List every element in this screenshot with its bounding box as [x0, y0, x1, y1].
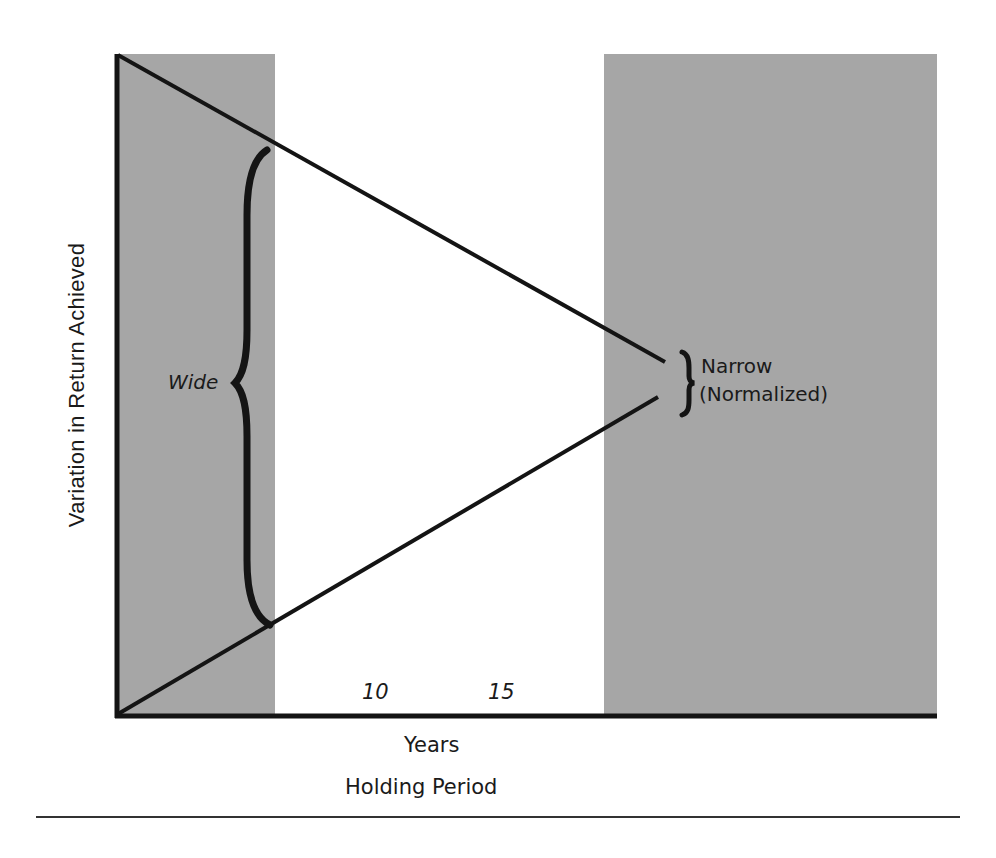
wide-label: Wide: [168, 370, 218, 394]
x-axis-label: Years: [404, 733, 459, 757]
x-tick-10: 10: [362, 680, 389, 704]
narrow-label: Narrow: [701, 352, 772, 380]
y-axis-label: Variation in Return Achieved: [64, 243, 90, 527]
x-axis-caption: Holding Period: [345, 775, 497, 799]
funnel-diagram: [0, 0, 996, 858]
normalized-label: (Normalized): [699, 380, 828, 408]
x-tick-15: 15: [488, 680, 515, 704]
